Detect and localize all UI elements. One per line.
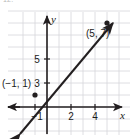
problem-number-stub: 12.: [3, 0, 13, 3]
point-label-a: (−1, 1): [2, 78, 31, 89]
y-tick-label-3: 3: [34, 78, 40, 89]
x-axis-label: x: [119, 109, 125, 121]
tick-marks: [35, 59, 95, 110]
coordinate-plane-svg: y x 5 3 −1 2 4 (−1, 1) (5, 7): [0, 6, 131, 139]
x-tick-label-2: 2: [68, 111, 74, 122]
x-tick-label-neg1: −1: [31, 111, 43, 122]
y-tick-label-5: 5: [34, 54, 40, 65]
point-label-b: (5, 7): [86, 28, 109, 39]
coordinate-plane-figure: y x 5 3 −1 2 4 (−1, 1) (5, 7): [0, 6, 131, 139]
graph-screenshot: 12.: [0, 0, 131, 139]
x-tick-label-4: 4: [92, 111, 98, 122]
data-point-marker: [104, 20, 109, 25]
y-axis-label: y: [50, 13, 56, 25]
data-point-marker: [32, 92, 37, 97]
